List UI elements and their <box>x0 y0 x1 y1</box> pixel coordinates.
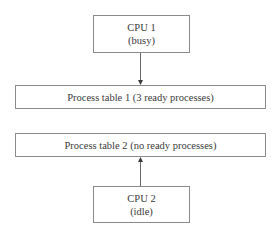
cpu1-status: (busy) <box>128 34 155 47</box>
cpu2-box: CPU 2 (idle) <box>93 186 190 223</box>
cpu2-status: (idle) <box>130 205 153 218</box>
arrow-cpu2-to-table2 <box>138 157 143 186</box>
cpu2-title: CPU 2 <box>127 192 155 205</box>
diagram-canvas: CPU 1 (busy) Process table 1 (3 ready pr… <box>0 0 278 239</box>
process-table-1-label: Process table 1 (3 ready processes) <box>67 91 214 104</box>
process-table-2-label: Process table 2 (no ready processes) <box>65 139 217 152</box>
arrow-cpu1-to-table1 <box>138 53 143 85</box>
process-table-2-box: Process table 2 (no ready processes) <box>15 133 266 157</box>
cpu1-box: CPU 1 (busy) <box>93 15 190 53</box>
process-table-1-box: Process table 1 (3 ready processes) <box>15 85 266 109</box>
cpu1-title: CPU 1 <box>127 21 155 34</box>
